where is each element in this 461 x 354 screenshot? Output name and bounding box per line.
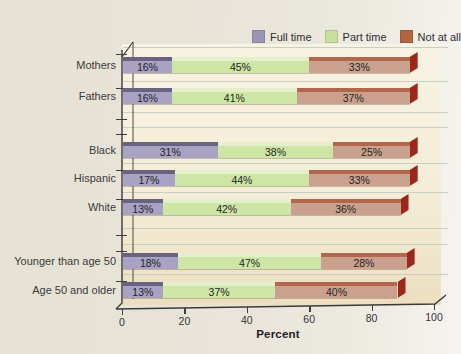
x-axis-title: Percent [198,328,358,340]
axis-lines [0,0,461,354]
stacked-bar-chart-figure: Full timePart timeNot at all Mothers16%4… [0,0,461,354]
